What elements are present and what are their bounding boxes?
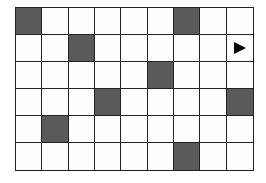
grid-cell-shaded — [95, 89, 121, 116]
grid-cell — [174, 116, 200, 143]
grid-cell — [16, 35, 42, 62]
grid-cell — [42, 62, 68, 89]
grid-cell-shaded — [16, 8, 42, 35]
grid-cell — [95, 143, 121, 170]
grid-cell — [200, 116, 226, 143]
grid-cell — [69, 143, 95, 170]
grid-cell — [95, 116, 121, 143]
grid-cell — [200, 62, 226, 89]
grid-cell — [95, 62, 121, 89]
grid-cell — [16, 89, 42, 116]
grid-cell — [200, 35, 226, 62]
grid-cell — [121, 89, 147, 116]
grid-cell — [69, 62, 95, 89]
grid-cell — [148, 143, 174, 170]
grid-cell — [69, 8, 95, 35]
grid-cell — [69, 116, 95, 143]
grid-cell-shaded — [174, 8, 200, 35]
grid-cell — [16, 143, 42, 170]
grid-cell — [69, 89, 95, 116]
grid-cell-shaded — [227, 89, 253, 116]
grid-cell — [121, 116, 147, 143]
grid-cell — [42, 143, 68, 170]
grid-cell — [148, 89, 174, 116]
grid-cell — [174, 35, 200, 62]
grid-cell — [200, 89, 226, 116]
grid-cell — [42, 89, 68, 116]
grid-cell — [121, 62, 147, 89]
grid-cell — [227, 8, 253, 35]
grid-cell-shaded — [174, 143, 200, 170]
grid-cell — [121, 8, 147, 35]
grid-cell — [121, 35, 147, 62]
grid-cell — [42, 8, 68, 35]
grid-cell-shaded — [69, 35, 95, 62]
grid-cell — [227, 116, 253, 143]
grid-cell — [227, 143, 253, 170]
grid-cell — [121, 143, 147, 170]
grid-cell-shaded — [42, 116, 68, 143]
grid-cell — [200, 143, 226, 170]
grid-cell — [174, 89, 200, 116]
grid-cell — [16, 62, 42, 89]
grid-cell — [16, 116, 42, 143]
grid-cell — [174, 62, 200, 89]
grid-board — [15, 7, 254, 171]
grid-cell — [227, 35, 253, 62]
grid-cell — [148, 8, 174, 35]
grid-cell — [42, 35, 68, 62]
grid-cell — [148, 35, 174, 62]
grid-cell — [95, 35, 121, 62]
grid-cell — [148, 116, 174, 143]
grid-cell — [95, 8, 121, 35]
arrow-right-icon — [234, 42, 246, 54]
grid-cell — [200, 8, 226, 35]
grid-cell — [227, 62, 253, 89]
grid-cell-shaded — [148, 62, 174, 89]
